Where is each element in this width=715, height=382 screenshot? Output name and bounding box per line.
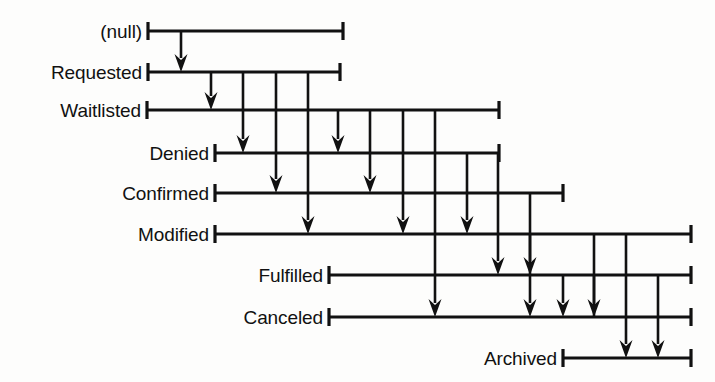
state-label-canceled: Canceled (244, 308, 323, 327)
state-label-modified: Modified (138, 225, 209, 244)
transition-waitlisted-to-canceled[interactable] (429, 110, 442, 317)
state-label-waitlisted: Waitlisted (60, 101, 141, 120)
lifeline-fulfilled (329, 266, 691, 284)
transition-archived-inbound-right[interactable] (652, 317, 665, 358)
transition-null-to-requested[interactable] (175, 31, 188, 72)
lifeline-waitlisted (147, 101, 499, 119)
lifeline-confirmed (215, 184, 563, 202)
lifelines-group (147, 22, 691, 367)
state-label-denied: Denied (149, 144, 209, 163)
state-label-archived: Archived (484, 349, 557, 368)
lifeline-null (148, 22, 343, 40)
state-label-null: (null) (100, 22, 142, 41)
state-label-confirmed: Confirmed (122, 184, 209, 203)
transition-requested-to-confirmed[interactable] (270, 72, 283, 193)
transition-waitlisted-to-denied[interactable] (332, 110, 345, 153)
state-label-requested: Requested (51, 63, 142, 82)
state-transition-diagram: (null)RequestedWaitlistedDeniedConfirmed… (0, 0, 715, 382)
transition-fulfilled-to-canceled[interactable] (557, 275, 570, 317)
lifeline-modified (215, 225, 691, 243)
lifeline-canceled (329, 308, 691, 326)
diagram-canvas (0, 0, 715, 382)
transition-canceled-to-archived[interactable] (620, 317, 633, 358)
transition-confirmed-to-canceled[interactable] (524, 275, 537, 317)
transition-denied-to-fulfilled[interactable] (492, 153, 505, 275)
transition-requested-to-denied[interactable] (237, 72, 250, 153)
transition-waitlisted-to-modified[interactable] (397, 110, 410, 234)
transition-requested-to-waitlisted[interactable] (205, 72, 218, 110)
lifeline-denied (215, 144, 499, 162)
state-label-fulfilled: Fulfilled (258, 266, 323, 285)
